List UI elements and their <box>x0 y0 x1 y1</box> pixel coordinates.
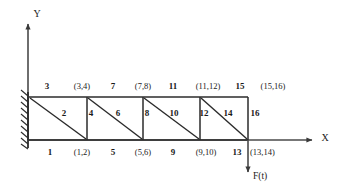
y-axis-label: Y <box>33 9 40 19</box>
element-label-14: 14 <box>224 109 233 118</box>
element-label-11: 11 <box>169 82 178 91</box>
node-dof-9-10: (9,10) <box>196 148 217 157</box>
x-axis-label: X <box>321 133 328 143</box>
element-label-3: 3 <box>45 82 50 91</box>
element-label-16: 16 <box>251 109 260 118</box>
node-dof-11-12: (11,12) <box>196 82 220 91</box>
node-dof-7-8: (7,8) <box>135 82 151 91</box>
element-label-6: 6 <box>116 109 121 118</box>
element-label-13: 13 <box>233 148 242 157</box>
node-dof-5-6: (5,6) <box>135 148 151 157</box>
element-label-10: 10 <box>170 109 179 118</box>
element-label-5: 5 <box>111 148 116 157</box>
truss-diagram-svg <box>0 0 337 192</box>
element-label-2: 2 <box>62 109 67 118</box>
figure-canvas: Y X F(t) 3 (3,4) 7 (7,8) 11 (11,12) 15 (… <box>0 0 337 192</box>
node-dof-15-16: (15,16) <box>261 82 286 91</box>
element-label-15: 15 <box>236 82 245 91</box>
node-dof-3-4: (3,4) <box>74 82 90 91</box>
node-dof-13-14: (13,14) <box>250 148 275 157</box>
element-label-12: 12 <box>200 109 209 118</box>
element-label-7: 7 <box>111 82 116 91</box>
diagonal-members <box>30 98 247 139</box>
element-label-4: 4 <box>89 109 94 118</box>
force-label: F(t) <box>253 172 267 182</box>
element-label-8: 8 <box>145 109 150 118</box>
element-label-1: 1 <box>48 148 53 157</box>
node-dof-1-2: (1,2) <box>74 148 90 157</box>
element-label-9: 9 <box>171 148 176 157</box>
fixed-support-wall <box>21 90 28 149</box>
